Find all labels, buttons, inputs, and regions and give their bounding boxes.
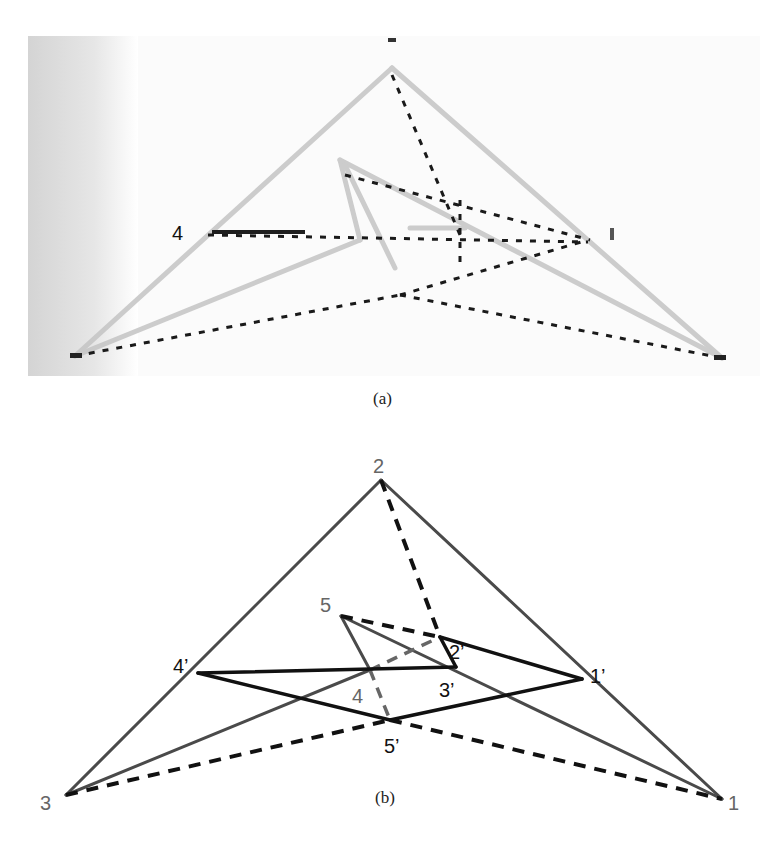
edge-5-1 [341, 616, 722, 799]
label-vertex-1-prime: 1’ [590, 665, 606, 687]
edge-5-2p-dashed [341, 616, 440, 637]
edge-4-5p-dashed [370, 670, 390, 720]
label-vertex-3-prime: 3’ [439, 679, 455, 701]
edge-2-1 [381, 480, 722, 799]
label-vertex-4: 4 [352, 685, 363, 707]
edge-2-2p-dashed [381, 480, 440, 637]
label-vertex-3: 3 [40, 792, 51, 814]
edge-3-4 [66, 670, 370, 795]
label-vertex-1: 1 [728, 792, 739, 814]
caption-b: (b) [375, 788, 395, 808]
label-vertex-2: 2 [373, 455, 384, 477]
edge-3-5p-dashed [66, 720, 390, 795]
panel-b-diagram: 2 5 4 3 1 2’ 4’ 3’ 1’ 5’ (b) [0, 0, 784, 850]
label-vertex-2-prime: 2’ [449, 641, 465, 663]
edge-3-2 [66, 480, 381, 795]
edge-4p-3p [198, 667, 456, 673]
schematic-figure: 2 5 4 3 1 2’ 4’ 3’ 1’ 5’ [0, 0, 784, 850]
label-vertex-5-prime: 5’ [384, 735, 400, 757]
label-vertex-5: 5 [320, 594, 331, 616]
edge-4-2p-dashed [370, 637, 440, 670]
edge-5p-1-dashed [390, 720, 722, 799]
label-vertex-4-prime: 4’ [173, 655, 189, 677]
